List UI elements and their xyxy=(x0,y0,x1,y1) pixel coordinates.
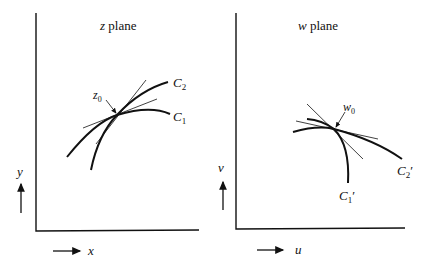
z-plane-title: z plane xyxy=(99,18,137,33)
x-axis-label: x xyxy=(87,243,94,258)
v-axis-label: v xyxy=(218,160,224,175)
w-plane-title: w plane xyxy=(298,18,338,33)
c1-label: C1 xyxy=(173,109,186,126)
c2-label: C2 xyxy=(173,75,186,92)
w0-label: w0 xyxy=(343,100,355,116)
curve-c2 xyxy=(91,82,168,170)
curve-c1-prime xyxy=(293,128,348,183)
c1-prime-label: C1′ xyxy=(339,188,355,205)
curve-c2-prime xyxy=(307,119,402,159)
curve-c1 xyxy=(67,110,170,157)
z0-pointer xyxy=(106,100,116,113)
z-plane-panel: z plane z0 C2 C1 y x xyxy=(15,13,199,258)
z0-label: z0 xyxy=(92,88,102,104)
c2-prime-label: C2′ xyxy=(397,163,413,180)
w0-pointer xyxy=(336,112,345,127)
u-axis-label: u xyxy=(295,242,302,257)
conformal-mapping-diagram: z plane z0 C2 C1 y x w plane w0 C2′ C1′ xyxy=(0,0,428,266)
w-plane-panel: w plane w0 C2′ C1′ v u xyxy=(218,13,413,257)
y-axis-label: y xyxy=(15,164,23,179)
